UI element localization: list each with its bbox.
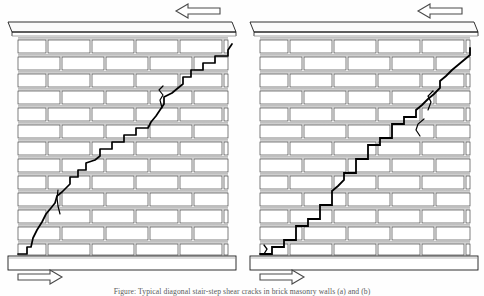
course-4 xyxy=(260,91,470,104)
course-5 xyxy=(260,108,470,121)
course-7 xyxy=(18,142,228,155)
course-11 xyxy=(260,210,470,223)
course-4 xyxy=(18,91,228,104)
course-12 xyxy=(260,227,470,240)
figure-caption: Figure: Typical diagonal stair-step shea… xyxy=(0,288,484,296)
course-12 xyxy=(18,227,228,240)
course-6 xyxy=(18,125,228,138)
course-3 xyxy=(260,74,470,87)
course-11 xyxy=(18,210,228,223)
panel-left-wall xyxy=(0,0,242,296)
bottom-shear-arrow-right xyxy=(18,270,62,284)
course-5 xyxy=(18,108,228,121)
course-9 xyxy=(260,176,470,189)
right-wall-drawing xyxy=(242,0,484,296)
course-1 xyxy=(18,40,228,53)
course-8 xyxy=(260,159,470,172)
brick-courses xyxy=(260,37,470,255)
course-2 xyxy=(18,57,228,70)
course-10 xyxy=(260,193,470,206)
course-2 xyxy=(260,57,470,70)
figure-canvas: Figure: Typical diagonal stair-step shea… xyxy=(0,0,484,296)
course-13 xyxy=(18,244,228,255)
course-10 xyxy=(18,193,228,206)
panel-right-wall xyxy=(242,0,484,296)
course-1 xyxy=(260,40,470,53)
left-wall-drawing xyxy=(0,0,242,296)
course-6 xyxy=(260,125,470,138)
cap-beam xyxy=(250,22,478,36)
course-13 xyxy=(260,244,470,255)
course-7 xyxy=(260,142,470,155)
cap-beam xyxy=(8,22,236,36)
top-shear-arrow-left xyxy=(176,4,220,18)
strip-footing xyxy=(250,256,478,270)
bottom-shear-arrow-right xyxy=(260,270,304,284)
course-8 xyxy=(18,159,228,172)
top-shear-arrow-left xyxy=(418,4,462,18)
strip-footing xyxy=(8,256,236,270)
course-3 xyxy=(18,74,228,87)
course-9 xyxy=(18,176,228,189)
